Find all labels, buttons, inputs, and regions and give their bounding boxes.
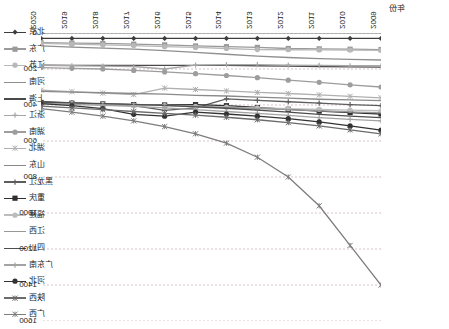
legend-swatch-line-icon: [4, 226, 26, 236]
data-point-marker: [286, 99, 291, 104]
y-tick-label: 800: [24, 172, 37, 181]
data-point-marker: [12, 129, 17, 134]
y-tick-label: 0: [33, 28, 37, 37]
data-point-marker: [162, 36, 167, 41]
data-point-marker: [378, 118, 381, 123]
data-point-marker: [255, 75, 260, 80]
data-point-marker: [347, 82, 352, 87]
line-chart-figure: 年份 北京广东江苏河南上海浙江湖南湖北山东黑龙江重庆福建江西四川广东南河北陕西广…: [0, 0, 449, 329]
data-point-marker: [224, 36, 229, 41]
data-point-marker: [317, 80, 322, 85]
data-point-marker: [193, 45, 198, 50]
data-point-marker: [347, 36, 352, 41]
data-point-marker: [131, 36, 136, 41]
legend-swatch-plus-icon: [4, 260, 26, 270]
data-point-marker: [347, 117, 352, 122]
data-point-marker: [162, 69, 167, 74]
mirrored-figure-wrapper: 年份 北京广东江苏河南上海浙江湖南湖北山东黑龙江重庆福建江西四川广东南河北陕西广…: [0, 0, 449, 329]
data-point-marker: [69, 42, 74, 47]
data-point-marker: [12, 196, 17, 201]
data-point-marker: [12, 312, 17, 317]
x-tick-label: 2013: [245, 11, 254, 29]
legend-swatch-square-icon: [4, 193, 26, 203]
legend-swatch-square-icon: [4, 44, 26, 54]
data-point-marker: [347, 48, 352, 53]
data-point-marker: [255, 98, 260, 103]
data-point-marker: [378, 103, 381, 108]
x-tick-label: 2016: [153, 11, 162, 29]
data-point-marker: [224, 46, 229, 51]
data-point-marker: [224, 96, 229, 101]
legend-swatch-diamond-icon: [4, 27, 26, 37]
y-tick-label: 600: [24, 136, 37, 145]
data-point-marker: [12, 113, 17, 118]
data-point-marker: [378, 84, 381, 89]
data-point-marker: [224, 62, 229, 67]
data-point-marker: [12, 63, 17, 68]
x-tick-label: 2011: [307, 12, 316, 29]
data-point-marker: [347, 102, 352, 107]
y-tick-label: 200: [24, 64, 37, 73]
y-tick-label: 1000: [19, 208, 37, 217]
data-point-marker: [286, 36, 291, 41]
data-point-marker: [100, 36, 105, 41]
x-tick-label: 2017: [122, 11, 131, 29]
data-point-marker: [317, 101, 322, 106]
x-tick-label: 2009: [369, 11, 378, 29]
data-point-marker: [255, 36, 260, 41]
legend-swatch-plus-icon: [4, 110, 26, 120]
data-point-marker: [69, 66, 74, 71]
data-point-marker: [224, 73, 229, 78]
data-point-marker: [100, 42, 105, 47]
series-line: [41, 68, 381, 87]
x-tick-label: 2019: [60, 11, 69, 29]
data-point-marker: [255, 155, 260, 160]
data-point-marker: [193, 36, 198, 41]
legend-swatch-star-icon: [4, 293, 26, 303]
data-point-marker: [131, 43, 136, 48]
plot-area: [41, 33, 381, 321]
data-point-marker: [286, 106, 291, 111]
y-tick-label: 400: [24, 100, 37, 109]
x-axis-title: 年份: [389, 2, 405, 13]
data-point-marker: [286, 62, 291, 67]
data-point-marker: [317, 63, 322, 68]
data-point-marker: [378, 36, 381, 41]
y-tick-label: 1400: [19, 280, 37, 289]
data-point-marker: [12, 262, 17, 267]
data-point-marker: [286, 78, 291, 83]
data-point-marker: [12, 212, 17, 217]
data-point-marker: [193, 71, 198, 76]
data-point-marker: [12, 179, 17, 184]
data-point-marker: [12, 279, 17, 284]
legend-swatch-line-icon: [4, 77, 26, 87]
x-tick-label: 2018: [91, 11, 100, 29]
data-point-marker: [286, 47, 291, 52]
data-point-marker: [131, 68, 136, 73]
y-tick-label: 1600: [19, 316, 37, 325]
data-point-marker: [255, 47, 260, 52]
x-tick-label: 2012: [276, 11, 285, 29]
legend-swatch-line-icon: [4, 160, 26, 170]
x-tick-label: 2020: [29, 11, 38, 29]
data-point-marker: [100, 66, 105, 71]
data-point-marker: [286, 174, 291, 179]
y-tick-label: 1200: [19, 244, 37, 253]
x-tick-label: 2014: [214, 11, 223, 29]
data-point-marker: [193, 62, 198, 67]
x-tick-label: 2010: [338, 11, 347, 29]
data-point-marker: [317, 47, 322, 52]
data-point-marker: [12, 30, 17, 35]
data-point-marker: [317, 203, 322, 208]
x-tick-label: 2015: [184, 11, 193, 29]
data-point-marker: [12, 146, 17, 151]
series-line: [41, 109, 381, 285]
data-point-marker: [162, 44, 167, 49]
data-point-marker: [347, 63, 352, 68]
data-point-marker: [255, 62, 260, 67]
chart-svg: [41, 33, 381, 321]
data-point-marker: [12, 295, 17, 300]
data-point-marker: [347, 243, 352, 248]
data-point-marker: [317, 36, 322, 41]
data-point-marker: [12, 46, 17, 51]
